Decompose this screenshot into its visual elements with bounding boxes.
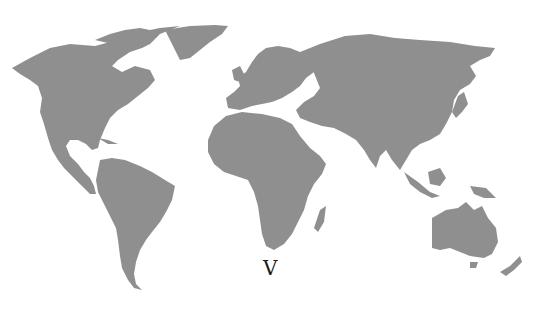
new-guinea xyxy=(470,186,496,198)
world-map xyxy=(0,0,555,312)
north-america xyxy=(12,26,180,194)
new-zealand xyxy=(500,256,522,276)
africa xyxy=(208,112,326,250)
south-america xyxy=(96,158,175,290)
map-label: V xyxy=(263,258,277,278)
borneo xyxy=(428,168,446,186)
madagascar xyxy=(314,206,326,232)
world-map-figure: V xyxy=(0,0,555,312)
tasmania xyxy=(470,262,478,268)
caribbean xyxy=(98,138,118,144)
australia xyxy=(432,202,498,258)
greenland xyxy=(165,25,228,60)
